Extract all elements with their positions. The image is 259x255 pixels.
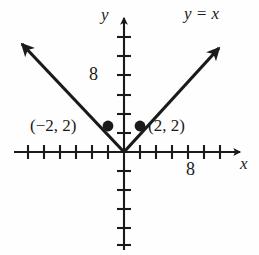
x-axis-tick-label-8: 8 [186,160,195,178]
x-axis-label: x [240,155,248,172]
data-point-left [103,121,114,132]
data-point-right [135,121,146,132]
curve-left-branch [22,44,124,152]
y-axis-tick-label-8: 8 [89,65,98,83]
y-axis-label: y [101,6,109,23]
point-label-left: (−2, 2) [30,117,76,134]
equation-annotation: y = x [184,5,219,22]
graph-figure: y x y = x 8 8 (−2, 2) (2, 2) [0,0,259,255]
curve-right-branch [124,48,219,152]
point-label-right: (2, 2) [148,117,185,134]
